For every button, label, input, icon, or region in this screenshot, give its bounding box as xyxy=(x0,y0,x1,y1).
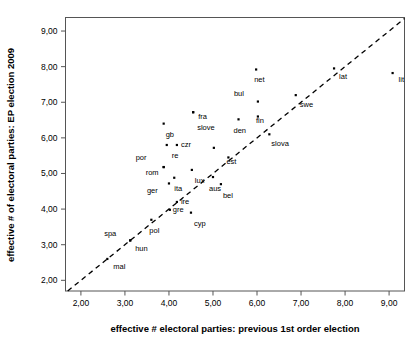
data-point-marker xyxy=(392,72,394,74)
scatter-plot-figure: 2,003,004,005,006,007,008,009,00 2,003,0… xyxy=(0,0,419,345)
data-point-marker xyxy=(192,111,194,113)
data-point-label: ger xyxy=(147,186,158,195)
data-point-label: hun xyxy=(135,244,148,253)
x-tick-label: 3,00 xyxy=(117,298,134,308)
data-point-marker xyxy=(190,212,192,214)
data-point-label: spa xyxy=(104,229,117,238)
data-point-marker xyxy=(295,94,297,96)
data-point-label: bul xyxy=(234,89,244,98)
data-point-label: aus xyxy=(209,184,221,193)
data-point-label: pol xyxy=(149,226,159,235)
data-point-marker xyxy=(173,177,175,179)
y-tick-label: 8,00 xyxy=(41,62,58,72)
data-point-label: rom xyxy=(146,168,159,177)
data-point-label: por xyxy=(136,153,147,162)
data-point-label: gre xyxy=(173,205,184,214)
data-point-label: bel xyxy=(223,191,233,200)
y-tick-label: 6,00 xyxy=(41,133,58,143)
data-point-marker xyxy=(268,133,270,135)
data-point-label: swe xyxy=(300,100,313,109)
data-point-label: czr xyxy=(181,140,192,149)
y-tick-label: 2,00 xyxy=(41,275,58,285)
data-point-label: den xyxy=(234,126,247,135)
x-axis-title: effective # electoral parties: previous … xyxy=(110,323,359,334)
data-point-marker xyxy=(255,68,257,70)
x-tick-label: 9,00 xyxy=(381,298,398,308)
data-point-label: fin xyxy=(256,116,264,125)
data-point-marker xyxy=(163,123,165,125)
data-point-label: net xyxy=(254,75,265,84)
data-point-marker xyxy=(163,166,165,168)
data-point-marker xyxy=(213,147,215,149)
data-point-marker xyxy=(212,176,214,178)
figure-background xyxy=(0,0,419,345)
y-tick-label: 3,00 xyxy=(41,240,58,250)
data-point-marker xyxy=(191,169,193,171)
x-tick-label: 5,00 xyxy=(205,298,222,308)
y-tick-label: 4,00 xyxy=(41,204,58,214)
y-tick-label: 7,00 xyxy=(41,97,58,107)
data-point-label: slova xyxy=(271,139,289,148)
data-point-marker xyxy=(166,144,168,146)
scatter-plot-canvas: 2,003,004,005,006,007,008,009,00 2,003,0… xyxy=(0,0,419,345)
data-point-marker xyxy=(129,239,131,241)
data-point-label: gb xyxy=(166,130,174,139)
data-point-marker xyxy=(176,144,178,146)
x-tick-label: 4,00 xyxy=(161,298,178,308)
data-point-label: mal xyxy=(113,262,125,271)
data-point-marker xyxy=(150,219,152,221)
data-point-label: est xyxy=(226,157,237,166)
data-point-marker xyxy=(106,258,108,260)
y-axis-title: effective # of electoral parties: EP ele… xyxy=(5,48,16,262)
data-point-marker xyxy=(333,67,335,69)
data-point-marker xyxy=(169,209,171,211)
data-point-marker xyxy=(168,182,170,184)
data-point-label: cyp xyxy=(194,219,206,228)
x-tick-label: 7,00 xyxy=(293,298,310,308)
data-point-label: lit xyxy=(399,75,405,84)
y-tick-label: 5,00 xyxy=(41,168,58,178)
data-point-marker xyxy=(176,201,178,203)
data-point-label: ita xyxy=(174,184,183,193)
x-tick-label: 2,00 xyxy=(73,298,90,308)
data-point-label: ire xyxy=(181,197,189,206)
data-point-label: slove xyxy=(197,123,215,132)
y-tick-label: 9,00 xyxy=(41,26,58,36)
data-point-label: lat xyxy=(339,72,348,81)
x-tick-label: 6,00 xyxy=(249,298,266,308)
data-point-label: fra xyxy=(198,112,208,121)
data-point-label: re xyxy=(172,151,179,160)
data-point-marker xyxy=(237,118,239,120)
data-point-label: lux xyxy=(195,176,205,185)
x-tick-label: 8,00 xyxy=(337,298,354,308)
data-point-marker xyxy=(257,100,259,102)
